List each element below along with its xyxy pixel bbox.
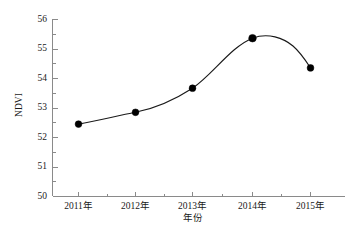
chart-canvas: 56 55 54 53 52 51 50 2011年 2012年 2013年 2… [0,0,355,243]
ndvi-line-chart-figure: 56 55 54 53 52 51 50 2011年 2012年 2013年 2… [0,0,355,243]
y-axis-title: NDVI [14,93,24,117]
x-tick-label: 2013年 [178,200,207,211]
y-tick-label: 50 [38,191,48,201]
x-tick-label: 2011年 [64,200,93,211]
y-tick-label: 51 [38,161,48,171]
data-point-marker [249,34,257,42]
y-tick-label: 53 [38,102,48,112]
y-tick-label: 52 [38,132,48,142]
data-point-marker [75,121,82,128]
x-tick-label: 2012年 [121,200,150,211]
x-tick-label: 2015年 [296,200,325,211]
data-point-marker [189,85,196,92]
y-tick-label: 56 [38,14,48,24]
y-tick-label: 55 [38,43,48,53]
data-point-marker [132,109,139,116]
y-tick-label: 54 [38,73,48,83]
x-axis-title: 年份 [183,212,203,223]
x-tick-label: 2014年 [238,200,267,211]
data-point-marker [307,65,314,72]
